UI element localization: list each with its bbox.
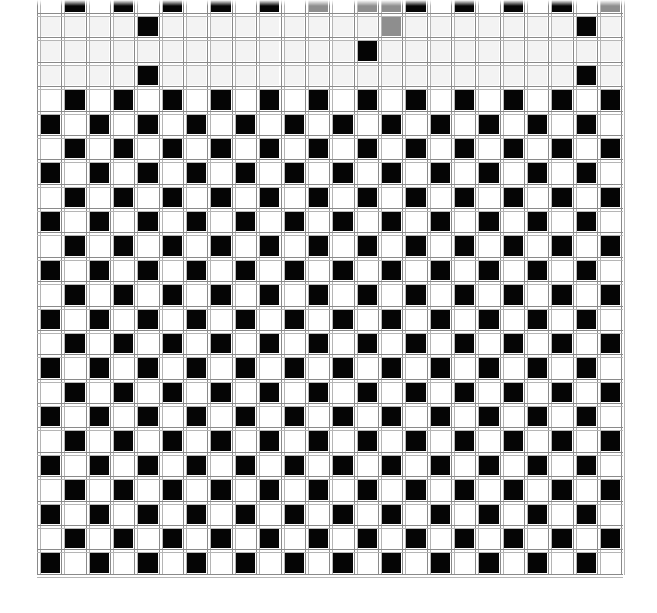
board-cell: [259, 260, 279, 280]
board-cell: [186, 357, 206, 377]
board-cell: [89, 162, 109, 182]
board-cell: [551, 65, 571, 85]
board-cell: [113, 187, 133, 207]
board-cell: [40, 284, 60, 304]
board-cell: [332, 552, 352, 572]
board-cell: [332, 260, 352, 280]
board-cell: [551, 138, 571, 158]
grid-line-vertical: [624, 0, 625, 575]
board-cell: [210, 504, 230, 524]
board-cell: [64, 552, 84, 572]
board-cell: [308, 284, 328, 304]
board-cell: [162, 65, 182, 85]
board-cell: [235, 455, 255, 475]
board-cell: [381, 333, 401, 353]
board-cell: [162, 333, 182, 353]
board-cell: [137, 211, 157, 231]
board-cell: [551, 504, 571, 524]
board-cell: [332, 309, 352, 329]
grid-line-horizontal: [37, 330, 623, 331]
board-cell: [284, 504, 304, 524]
board-cell: [259, 40, 279, 60]
board-cell: [162, 114, 182, 134]
board-cell: [64, 455, 84, 475]
board-cell: [40, 309, 60, 329]
board-cell: [284, 0, 304, 12]
grid-line-vertical: [61, 0, 62, 575]
board-cell: [381, 40, 401, 60]
board-cell: [40, 528, 60, 548]
board-cell: [381, 479, 401, 499]
board-cell: [430, 333, 450, 353]
board-cell: [162, 455, 182, 475]
grid-line-horizontal: [37, 13, 623, 14]
board-cell: [527, 528, 547, 548]
board-cell: [113, 138, 133, 158]
board-cell: [210, 528, 230, 548]
board-cell: [600, 40, 620, 60]
board-cell: [454, 187, 474, 207]
board-cell: [527, 406, 547, 426]
board-cell: [186, 138, 206, 158]
board-cell: [162, 430, 182, 450]
grid-line-vertical: [232, 0, 233, 575]
board-cell: [405, 162, 425, 182]
board-cell: [527, 114, 547, 134]
board-cell: [478, 65, 498, 85]
board-cell: [186, 430, 206, 450]
board-cell: [600, 89, 620, 109]
board-cell: [503, 211, 523, 231]
board-cell: [137, 114, 157, 134]
board-cell: [259, 16, 279, 36]
board-cell: [137, 357, 157, 377]
board-cell: [405, 211, 425, 231]
board-cell: [503, 504, 523, 524]
board-cell: [430, 382, 450, 402]
board-cell: [576, 309, 596, 329]
board-cell: [89, 504, 109, 524]
board-cell: [113, 260, 133, 280]
board-cell: [259, 235, 279, 255]
board-cell: [503, 114, 523, 134]
board-cell: [308, 89, 328, 109]
grid-line-vertical: [281, 0, 282, 575]
board-cell: [186, 382, 206, 402]
board-cell: [64, 260, 84, 280]
board-cell: [162, 16, 182, 36]
board-cell: [454, 430, 474, 450]
board-cell: [259, 406, 279, 426]
board-cell: [381, 162, 401, 182]
board-cell: [308, 40, 328, 60]
board-cell: [113, 89, 133, 109]
board-cell: [503, 89, 523, 109]
board-cell: [527, 187, 547, 207]
grid-line-horizontal: [37, 257, 623, 258]
board-cell: [381, 260, 401, 280]
board-cell: [454, 16, 474, 36]
board-cell: [405, 479, 425, 499]
board-cell: [478, 235, 498, 255]
board-cell: [308, 479, 328, 499]
grid-line-vertical: [402, 0, 403, 575]
board-cell: [405, 504, 425, 524]
board-cell: [40, 89, 60, 109]
board-cell: [332, 504, 352, 524]
board-cell: [332, 211, 352, 231]
board-cell: [210, 65, 230, 85]
board-cell: [137, 528, 157, 548]
board-cell: [162, 162, 182, 182]
board-cell: [430, 235, 450, 255]
board-cell: [527, 284, 547, 304]
board-cell: [454, 333, 474, 353]
board-cell: [478, 357, 498, 377]
board-cell: [600, 504, 620, 524]
board-cell: [576, 187, 596, 207]
board-cell: [162, 552, 182, 572]
board-cell: [503, 138, 523, 158]
grid-line-vertical: [475, 0, 476, 575]
board-cell: [89, 0, 109, 12]
board-cell: [478, 89, 498, 109]
board-cell: [478, 0, 498, 12]
board-cell: [210, 114, 230, 134]
board-cell: [430, 114, 450, 134]
